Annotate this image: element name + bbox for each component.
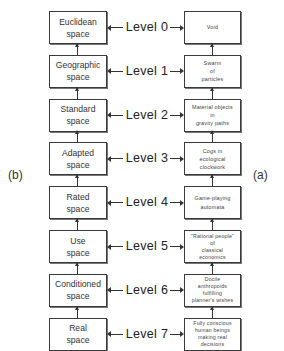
- entity-box: Void: [184, 11, 241, 44]
- entity-box-text: human beings: [195, 327, 230, 334]
- space-box-text: Euclidean: [59, 16, 97, 28]
- arrow-right-icon: [180, 331, 184, 337]
- arrow-right-icon: [180, 200, 184, 206]
- level-label: Level 3: [124, 151, 170, 165]
- space-box-text: space: [67, 334, 90, 346]
- arrow-up-icon: [77, 88, 78, 99]
- entity-box-text: Void: [207, 23, 218, 31]
- connector-line: [109, 158, 123, 159]
- level-connector: Level 7: [107, 327, 184, 341]
- space-box-text: space: [67, 115, 90, 127]
- connector-line: [109, 115, 123, 116]
- entity-box-text: Fully conscious: [193, 320, 231, 327]
- arrow-up-icon: [212, 175, 213, 186]
- arrow-right-icon: [180, 68, 184, 74]
- arrow-right-icon: [180, 244, 184, 250]
- space-box-text: space: [67, 159, 90, 171]
- level-connector: Level 0: [107, 20, 184, 34]
- arrow-up-icon: [212, 307, 213, 318]
- label-b: (b): [8, 168, 23, 182]
- arrow-up-icon: [212, 88, 213, 99]
- space-box: Realspace: [49, 318, 107, 351]
- connector-line: [109, 290, 123, 291]
- level-label: Level 6: [124, 283, 170, 297]
- entity-box: Cogs inecologicalclockwork: [184, 142, 241, 175]
- space-box: Euclideanspace: [49, 11, 107, 44]
- entity-box-text: anthropoids: [198, 283, 227, 290]
- connector-line: [109, 71, 123, 72]
- level-connector: Level 6: [107, 283, 184, 297]
- space-box-text: space: [67, 203, 90, 215]
- entity-box-text: Swarm: [204, 59, 222, 67]
- space-box: Usespace: [49, 230, 107, 263]
- entity-box-text: Cogs in: [203, 147, 223, 155]
- arrow-up-icon: [212, 219, 213, 230]
- connector-line: [109, 246, 123, 247]
- level-connector: Level 1: [107, 64, 184, 78]
- space-box: Geographicspace: [49, 55, 107, 88]
- level-connector: Level 2: [107, 108, 184, 122]
- space-box: Ratedspace: [49, 186, 107, 219]
- space-box-text: Real: [69, 322, 87, 334]
- arrow-up-icon: [77, 219, 78, 230]
- level-connector: Level 4: [107, 195, 184, 209]
- arrow-up-icon: [77, 44, 78, 55]
- level-label: Level 1: [124, 64, 170, 78]
- entity-box-text: in: [210, 111, 215, 119]
- entity-box-text: planner's wishes: [192, 297, 233, 304]
- level-connector: Level 3: [107, 151, 184, 165]
- entity-box: Fully conscioushuman beingsmaking realde…: [184, 318, 241, 351]
- level-label: Level 5: [124, 239, 170, 253]
- space-box-text: Adapted: [62, 147, 94, 159]
- entity-box-text: making real: [198, 334, 227, 341]
- entity-box: Material objectsingravity paths: [184, 99, 241, 132]
- arrow-up-icon: [77, 131, 78, 142]
- space-box: Standardspace: [49, 99, 107, 132]
- level-label: Level 2: [124, 108, 170, 122]
- arrow-right-icon: [180, 112, 184, 118]
- label-a: (a): [253, 168, 268, 182]
- connector-line: [109, 27, 123, 28]
- entity-box-text: Game-playing: [195, 194, 231, 202]
- space-box-text: space: [67, 247, 90, 259]
- entity-box-text: ecological: [200, 155, 226, 163]
- arrow-right-icon: [180, 25, 184, 31]
- entity-box: "Rational people"ofclassicaleconomics: [184, 230, 241, 263]
- space-box-text: space: [67, 71, 90, 83]
- space-box: Conditionedspace: [49, 274, 107, 307]
- arrow-up-icon: [212, 131, 213, 142]
- space-box-text: space: [67, 290, 90, 302]
- entity-box-text: decisions: [201, 341, 224, 348]
- entity-box-text: economics: [199, 254, 226, 261]
- entity-box-text: Docile: [205, 276, 221, 283]
- entity-box-text: classical: [202, 247, 223, 254]
- entity-box-text: Material objects: [192, 103, 233, 111]
- entity-box-text: clockwork: [200, 163, 225, 171]
- arrow-up-icon: [212, 263, 213, 274]
- entity-box: Game-playingautomata: [184, 186, 241, 219]
- space-box-text: Conditioned: [55, 278, 101, 290]
- connector-line: [109, 334, 123, 335]
- space-box-text: space: [67, 28, 90, 40]
- level-label: Level 0: [124, 20, 170, 34]
- space-box-text: Use: [70, 235, 85, 247]
- arrow-up-icon: [212, 44, 213, 55]
- arrow-right-icon: [180, 156, 184, 162]
- level-connector: Level 5: [107, 239, 184, 253]
- space-box-text: Standard: [61, 103, 96, 115]
- entity-box-text: "Rational people": [191, 233, 234, 240]
- space-box: Adaptedspace: [49, 142, 107, 175]
- entity-box: Docileanthropoidsfulfillingplanner's wis…: [184, 274, 241, 307]
- entity-box-text: of: [210, 240, 215, 247]
- space-box-text: Rated: [67, 191, 90, 203]
- arrow-up-icon: [77, 263, 78, 274]
- entity-box-text: gravity paths: [196, 119, 229, 127]
- entity-box-text: automata: [200, 203, 224, 211]
- level-label: Level 7: [124, 327, 170, 341]
- entity-box-text: of: [210, 67, 215, 75]
- level-label: Level 4: [124, 195, 170, 209]
- arrow-up-icon: [77, 307, 78, 318]
- space-box-text: Geographic: [56, 59, 100, 71]
- entity-box-text: fulfilling: [203, 290, 222, 297]
- entity-box-text: particles: [202, 75, 224, 83]
